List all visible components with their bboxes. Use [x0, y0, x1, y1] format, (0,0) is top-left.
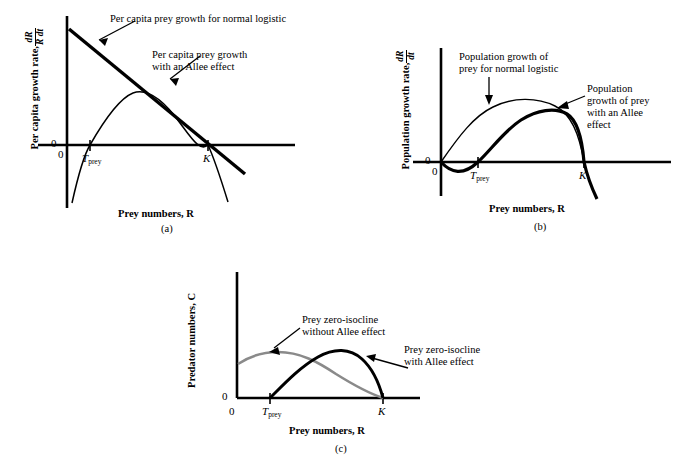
panel-c-annotation-with-allee-line1: Prey zero-isocline [404, 344, 480, 356]
panel-c-x-origin-label: 0 [229, 405, 235, 417]
panel-a-k-main: K [203, 152, 210, 164]
panel-b-caption: (b) [534, 221, 546, 232]
panel-a-tick-label-k: K [203, 152, 210, 164]
panel-a-caption: (a) [161, 223, 173, 234]
panel-b-y-fraction-denominator: dt [407, 50, 417, 63]
panel-c-caption: (c) [335, 443, 347, 454]
panel-b-annotation-allee-line4: effect [587, 119, 611, 131]
panel-b-annotation-logistic-line2: prey for normal logistic [459, 63, 558, 75]
panel-c-tprey-sub: prey [268, 410, 281, 419]
panel-c-tick-label-k: K [378, 405, 385, 417]
panel-a-tick-label-tprey: Tprey [82, 152, 101, 166]
panel-c-y-axis-label: Predator numbers, C [186, 293, 197, 388]
panel-b-annotation-allee-line1: Population [587, 83, 633, 95]
panel-c: Predator numbers, C 0 0 Tprey K Prey zer… [150, 240, 550, 466]
panel-a-annotation-normal-logistic: Per capita prey growth for normal logist… [110, 13, 286, 25]
panel-a-y-axis-label-text: Per capita growth rate, [29, 46, 40, 149]
panel-b-annotation-allee-line2: growth of prey [587, 95, 649, 107]
panel-a-x-origin-label: 0 [58, 148, 64, 160]
panel-b-x-origin-label: 0 [432, 165, 438, 177]
panel-b-tick-label-tprey: Tprey [470, 169, 489, 183]
panel-a-y-axis-fraction: dRR dt [25, 28, 46, 46]
panel-a-curve-allee-effect [72, 92, 228, 203]
panel-b-y-axis-fraction: dRdt [396, 50, 417, 63]
panel-c-annotation-without-allee-line1: Prey zero-isocline [302, 314, 378, 326]
panel-a-x-axis-label: Prey numbers, R [118, 208, 194, 219]
panel-b: Population growth rate,dRdt 0 0 Tprey K … [341, 0, 682, 240]
panel-c-annotation-without-allee-line2: without Allee effect [302, 326, 385, 338]
panel-c-k-main: K [378, 405, 385, 417]
panel-c-x-axis-label: Prey numbers, R [289, 425, 365, 436]
panel-b-curve-normal-logistic [441, 99, 584, 162]
panel-c-y-zero-label: 0 [222, 390, 228, 402]
panel-b-annotation-allee-line3: with an Allee [587, 107, 643, 119]
panel-b-leader-allee-effect [557, 96, 585, 109]
panel-b-x-axis-label: Prey numbers, R [489, 203, 565, 214]
panel-c-tick-label-tprey: Tprey [262, 405, 281, 419]
panel-a-annotation-allee-line1: Per capita prey growth [152, 49, 247, 61]
panel-b-y-axis-label-text: Population growth rate, [400, 63, 411, 170]
panel-a-y-zero-label: 0 [51, 137, 57, 149]
panel-a: Per capita growth rate,dRR dt 0 0 Tprey … [0, 0, 341, 240]
panel-b-y-zero-label: 0 [425, 154, 431, 166]
panel-c-leader-with-allee [366, 354, 408, 368]
panel-b-y-axis-label: Population growth rate,dRdt [385, 50, 428, 180]
panel-b-tick-label-k: K [579, 169, 586, 181]
panel-c-annotation-with-allee-line2: with Allee effect [404, 356, 474, 368]
panel-b-leader-normal-logistic [485, 77, 493, 105]
panel-a-y-fraction-denominator: R dt [36, 28, 46, 46]
panel-b-curve-allee-effect [441, 110, 597, 199]
panel-b-k-main: K [579, 169, 586, 181]
panel-a-leader-normal-logistic [99, 21, 135, 46]
panel-c-leader-without-allee [269, 328, 300, 355]
panel-b-tprey-sub: prey [476, 174, 489, 183]
panel-a-tprey-sub: prey [88, 157, 101, 166]
panel-a-annotation-allee-line2: with an Allee effect [152, 61, 234, 73]
panel-b-annotation-logistic-line1: Population growth of [459, 51, 548, 63]
